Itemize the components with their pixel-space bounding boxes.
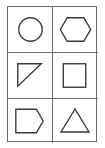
square-icon xyxy=(53,53,98,98)
cell-hexagon xyxy=(53,7,98,53)
cell-triangle xyxy=(53,99,98,143)
right-triangle-icon xyxy=(8,53,52,98)
shape-grid xyxy=(7,6,97,142)
circle-icon xyxy=(8,7,52,52)
cell-pentagon xyxy=(8,99,53,143)
cell-square xyxy=(53,53,98,99)
triangle-icon xyxy=(53,99,98,143)
hexagon-icon xyxy=(53,7,98,52)
pentagon-icon xyxy=(8,99,52,143)
cell-circle xyxy=(8,7,53,53)
cell-right-triangle xyxy=(8,53,53,99)
